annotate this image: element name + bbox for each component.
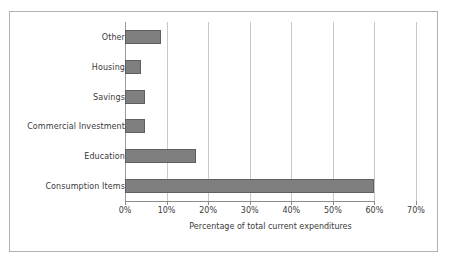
bar-category-label: Commercial Investment <box>27 122 125 131</box>
x-axis-tick <box>374 201 375 205</box>
bar-category-label: Other <box>102 32 125 41</box>
bar-row[interactable]: Housing <box>10 52 437 82</box>
x-axis-tick-label: 10% <box>158 206 176 215</box>
x-axis-tick <box>333 201 334 205</box>
bar[interactable] <box>125 60 141 74</box>
x-axis-tick-label: 30% <box>241 206 259 215</box>
x-axis-tick <box>125 201 126 205</box>
bar-row[interactable]: Savings <box>10 82 437 112</box>
bar-category-label: Savings <box>93 92 125 101</box>
x-axis-tick <box>291 201 292 205</box>
bar-category-label: Housing <box>92 62 125 71</box>
plot-area: OtherHousingSavingsCommercial Investment… <box>10 12 437 251</box>
x-axis-tick <box>250 201 251 205</box>
bar-category-label: Education <box>84 152 125 161</box>
bar-row[interactable]: Consumption Items <box>10 171 437 201</box>
x-axis-tick <box>167 201 168 205</box>
x-axis-tick-label: 70% <box>407 206 425 215</box>
bar[interactable] <box>125 119 145 133</box>
x-axis-tick-label: 20% <box>199 206 217 215</box>
bar-row[interactable]: Commercial Investment <box>10 112 437 142</box>
x-axis-title: Percentage of total current expenditures <box>125 222 416 231</box>
bar-row[interactable]: Other <box>10 22 437 52</box>
bar[interactable] <box>125 149 196 163</box>
bars-group: OtherHousingSavingsCommercial Investment… <box>10 12 437 251</box>
bar[interactable] <box>125 30 161 44</box>
bar-row[interactable]: Education <box>10 141 437 171</box>
x-axis-tick-label: 60% <box>366 206 384 215</box>
bar-category-label: Consumption Items <box>45 182 125 191</box>
bar[interactable] <box>125 179 374 193</box>
chart-frame: OtherHousingSavingsCommercial Investment… <box>9 11 438 252</box>
x-axis-tick-label: 50% <box>324 206 342 215</box>
bar[interactable] <box>125 90 145 104</box>
x-axis-tick-label: 40% <box>282 206 300 215</box>
x-axis-tick <box>416 201 417 205</box>
x-axis-tick <box>208 201 209 205</box>
x-axis-tick-label: 0% <box>119 206 132 215</box>
